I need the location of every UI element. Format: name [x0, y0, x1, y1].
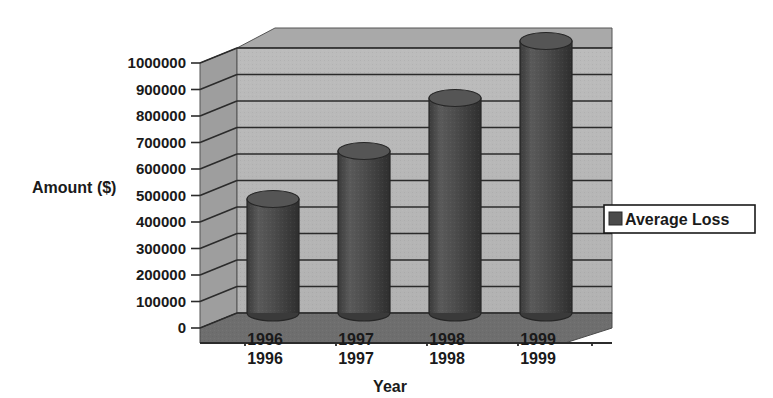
bar-texture — [247, 199, 299, 313]
x-tick-label-1999: 1999 — [520, 350, 556, 367]
bar-1998[interactable] — [429, 90, 481, 322]
x-tick-label: 1996 — [247, 331, 283, 348]
y-tick-label: 300000 — [136, 240, 186, 257]
x-tick-label: 1998 — [429, 331, 465, 348]
y-tick-label: 1000000 — [128, 54, 186, 71]
bar-top-ellipse — [429, 90, 481, 107]
legend-entry-label: Average Loss — [625, 211, 729, 228]
x-tick-label-1997: 1997 — [338, 350, 374, 367]
y-tick-label: 600000 — [136, 160, 186, 177]
y-tick-label: 500000 — [136, 187, 186, 204]
x-tick-label-1998: 1998 — [429, 350, 465, 367]
bar-texture — [429, 98, 481, 313]
bar-1996[interactable] — [247, 191, 299, 322]
x-tick-label: 1997 — [338, 331, 374, 348]
y-tick-label: 400000 — [136, 213, 186, 230]
x-axis-title: Year — [373, 378, 407, 395]
chart-legend[interactable]: Average Loss — [604, 205, 755, 233]
bar-top-ellipse — [338, 143, 390, 160]
x-axis-tick-labels-visible: 1996 1997 1998 1999 — [200, 346, 612, 370]
y-tick-label: 700000 — [136, 134, 186, 151]
bar-texture — [520, 41, 572, 313]
bar-top-ellipse — [520, 33, 572, 50]
y-tick-label: 100000 — [136, 293, 186, 310]
bar-1999[interactable] — [520, 33, 572, 322]
y-tick-label: 800000 — [136, 107, 186, 124]
bar-texture — [338, 151, 390, 313]
chart-container: 1000000 900000 800000 700000 600000 5000… — [0, 0, 773, 398]
y-tick-label: 900000 — [136, 81, 186, 98]
bar-1997[interactable] — [338, 143, 390, 322]
y-tick-label: 200000 — [136, 266, 186, 283]
y-axis-title: Amount ($) — [32, 179, 116, 196]
x-tick-label-1996: 1996 — [247, 350, 283, 367]
bar-chart-3d: 1000000 900000 800000 700000 600000 5000… — [0, 0, 773, 398]
y-tick-label: 0 — [178, 319, 186, 336]
bar-top-ellipse — [247, 191, 299, 208]
x-tick-label: 1999 — [520, 331, 556, 348]
legend-swatch-icon — [609, 212, 622, 225]
y-axis-tick-labels: 1000000 900000 800000 700000 600000 5000… — [128, 54, 186, 336]
